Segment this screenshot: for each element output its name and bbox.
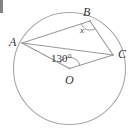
point-label-c: C [118, 48, 126, 60]
chord-bc [90, 21, 113, 55]
radius-oc [70, 55, 114, 69]
vertex-dot-a [21, 42, 23, 44]
geometry-drawing [0, 0, 134, 134]
inscribed-angle-label-x: x [80, 26, 84, 35]
point-label-a: A [9, 36, 16, 48]
circle-geometry-figure: A B C O 130° x [0, 0, 134, 134]
central-angle-label: 130° [51, 53, 72, 64]
point-label-o: O [65, 74, 74, 86]
vertex-dot-o [69, 68, 71, 70]
vertex-dot-b [89, 20, 91, 22]
point-label-b: B [83, 6, 90, 18]
vertex-dot-c [112, 54, 114, 56]
